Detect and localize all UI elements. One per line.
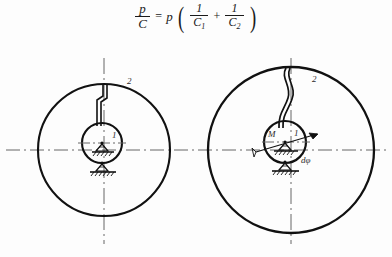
right-outer-label: 2	[312, 74, 317, 84]
rotation-angle-label: dφ	[301, 155, 311, 165]
open-paren: (	[178, 3, 184, 30]
term2-denominator: C2	[225, 16, 243, 32]
left-lower-pin-support	[90, 161, 116, 176]
term1-fraction: 1 C1	[190, 2, 208, 32]
right-upper-pin-support	[274, 140, 298, 155]
term2-numerator: 1	[225, 2, 243, 16]
right-lower-pin-support	[272, 160, 299, 175]
lhs-fraction: p C	[135, 2, 150, 31]
lhs-numerator: p	[135, 2, 150, 17]
rotation-left-tick	[252, 148, 256, 157]
moment-label: M	[267, 129, 276, 139]
coefficient-p: p	[166, 9, 173, 25]
compliance-formula: p C = p ( 1 C1 + 1 C2 )	[0, 2, 392, 32]
left-connector-rod	[97, 85, 107, 126]
formula-region: p C = p ( 1 C1 + 1 C2 )	[0, 2, 392, 48]
left-assembly: 1 2	[38, 58, 170, 244]
figure-page: p C = p ( 1 C1 + 1 C2 )	[0, 0, 392, 257]
right-inner-label: 1	[294, 128, 299, 138]
right-assembly: 1 M 2 dφ	[208, 58, 374, 244]
term1-numerator: 1	[190, 2, 208, 16]
diagram-canvas: 1 2	[0, 44, 392, 257]
left-inner-label: 1	[112, 130, 117, 140]
plus-sign: +	[213, 9, 220, 24]
close-paren: )	[250, 3, 256, 30]
rotation-indicator	[252, 133, 318, 157]
equals-sign: =	[155, 9, 162, 24]
left-outer-label: 2	[127, 76, 132, 86]
mechanical-diagram: 1 2	[0, 44, 392, 257]
lhs-denominator: C	[135, 17, 150, 31]
term1-denominator: C1	[190, 16, 208, 32]
left-upper-pin-support	[92, 141, 114, 156]
term2-fraction: 1 C2	[225, 2, 243, 32]
